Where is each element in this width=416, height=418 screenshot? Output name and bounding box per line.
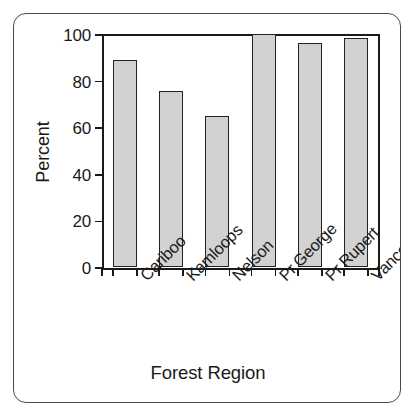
x-axis-tick-label: Nelson	[229, 272, 241, 284]
y-axis-tick	[95, 34, 102, 36]
bar[interactable]	[252, 34, 276, 267]
bar[interactable]	[113, 60, 137, 267]
y-axis-spine	[102, 34, 104, 270]
y-axis-tick	[95, 174, 102, 176]
y-axis-tick-label: 60	[72, 120, 91, 137]
y-axis-tick-label: 0	[82, 260, 91, 277]
x-axis-tick-label: Vancouver	[368, 272, 380, 284]
plot-top-border	[102, 34, 380, 36]
x-axis-tick-labels: CaribooKamloopsNelsonPr.GeorgePr.RupertV…	[102, 272, 379, 362]
y-axis-tick	[95, 127, 102, 129]
figure-frame: Percent 020406080100 CaribooKamloopsNels…	[13, 13, 401, 403]
x-axis-tick-label: Pr.George	[276, 272, 288, 284]
x-axis-tick-label: Cariboo	[137, 272, 149, 284]
x-axis-tick-label: Pr.Rupert	[322, 272, 334, 284]
y-axis-tick-label: 80	[72, 73, 91, 90]
y-axis-title: Percent	[28, 34, 58, 269]
y-axis-tick	[95, 81, 102, 83]
y-axis-tick	[95, 221, 102, 223]
x-axis-title: Forest Region	[14, 364, 401, 383]
y-axis-title-text: Percent	[34, 121, 52, 182]
y-axis-tick-label: 100	[63, 27, 91, 44]
y-axis-tick-label: 20	[72, 213, 91, 230]
x-axis-tick-label: Kamloops	[183, 272, 195, 284]
y-axis-tick-label: 40	[72, 166, 91, 183]
